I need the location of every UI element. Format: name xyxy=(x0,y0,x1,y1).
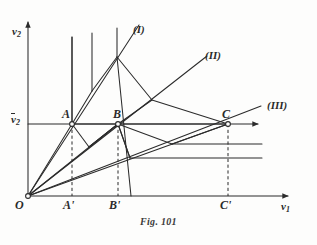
point-marker-c xyxy=(226,122,231,127)
curve-label-ii: (II) xyxy=(205,50,221,61)
y-axis-label-sub: 2 xyxy=(17,30,21,39)
point-label-a: A xyxy=(62,108,70,120)
point-label-c-prime: C' xyxy=(220,199,231,211)
fan-line-a-down-right xyxy=(72,124,89,147)
curve-label-i: (I) xyxy=(133,24,145,35)
y-level-label-sub: 2 xyxy=(16,118,20,127)
zigzag-segment-mid-to-c xyxy=(152,100,228,124)
figure-caption: Fig. 101 xyxy=(0,216,317,227)
diagram-canvas xyxy=(0,0,317,245)
ray-origin-through-b xyxy=(28,124,118,196)
point-label-b: B xyxy=(113,108,121,120)
zigzag-segment-peak-to-mid xyxy=(117,57,152,100)
ray-origin-through-a xyxy=(28,124,72,196)
zigzag-segment-a-to-apex1 xyxy=(72,91,92,124)
point-label-origin: O xyxy=(15,199,24,211)
point-marker-a xyxy=(70,122,75,127)
zigzag-segment-apex1-to-peak xyxy=(92,57,117,91)
point-marker-b xyxy=(116,122,121,127)
y-level-label-main: v xyxy=(11,114,16,125)
fan-line-b-to-right-lower xyxy=(118,124,172,144)
y-axis-label: v2 xyxy=(12,26,21,39)
point-label-c: C xyxy=(222,108,230,120)
y-level-label: v2 xyxy=(11,114,20,127)
point-label-a-prime: A' xyxy=(63,199,74,211)
figure-container: v2 v2 v1 (I) (II) (III) A B C O A' B' C'… xyxy=(0,0,317,245)
ray-origin-through-c xyxy=(28,124,228,196)
curve-label-iii: (III) xyxy=(267,100,287,111)
point-label-b-prime: B' xyxy=(109,199,120,211)
x-axis-label: v1 xyxy=(281,201,290,214)
point-marker-origin xyxy=(26,194,31,199)
x-axis-label-sub: 1 xyxy=(286,205,290,214)
